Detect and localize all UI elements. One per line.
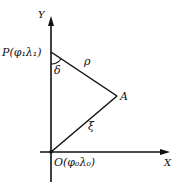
geodesic-diagram: Y X P(φ₁λ₁) δ ρ A ξ O(φ₀λ₀) bbox=[0, 0, 179, 184]
segment-label-xi: ξ bbox=[88, 120, 95, 133]
y-axis-arrow-icon bbox=[48, 16, 54, 26]
svg-text:O(φ₀λ₀): O(φ₀λ₀) bbox=[54, 156, 95, 169]
svg-text:P(φ₁λ₁): P(φ₁λ₁) bbox=[1, 46, 41, 59]
origin-dot bbox=[49, 150, 53, 154]
point-p-label: P(φ₁λ₁) bbox=[1, 46, 41, 59]
segment-oa bbox=[51, 96, 117, 152]
segment-label-rho: ρ bbox=[83, 55, 91, 68]
point-o-label: O(φ₀λ₀) bbox=[54, 156, 95, 169]
point-p-coords: (φ₁λ₁) bbox=[9, 46, 41, 59]
x-axis bbox=[40, 149, 170, 155]
x-axis-arrow-icon bbox=[160, 149, 170, 155]
angle-label-delta: δ bbox=[54, 64, 61, 77]
x-axis-label: X bbox=[163, 157, 172, 168]
y-axis-label: Y bbox=[38, 9, 46, 20]
point-o-name: O bbox=[54, 156, 63, 169]
point-a-label: A bbox=[119, 90, 128, 103]
point-o-coords: (φ₀λ₀) bbox=[63, 156, 95, 169]
